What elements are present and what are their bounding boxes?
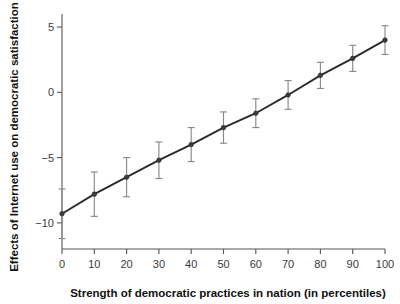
- y-tick-label: 0: [48, 86, 54, 98]
- y-tick-label: −5: [41, 152, 54, 164]
- data-point: [318, 73, 323, 78]
- x-tick-label: 90: [347, 258, 359, 270]
- data-point: [221, 125, 226, 130]
- x-tick-label: 100: [376, 258, 394, 270]
- data-point: [254, 111, 259, 116]
- y-tick-label: −10: [35, 217, 54, 229]
- x-tick-label: 0: [59, 258, 65, 270]
- x-tick-label: 60: [250, 258, 262, 270]
- x-tick-label: 80: [314, 258, 326, 270]
- x-tick-label: 10: [88, 258, 100, 270]
- y-axis-title: Effects of Internet use on democratic sa…: [8, 2, 20, 272]
- x-axis-title: Strength of democratic practices in nati…: [70, 287, 386, 299]
- data-point: [286, 93, 291, 98]
- x-tick-label: 30: [153, 258, 165, 270]
- data-point: [189, 142, 194, 147]
- x-tick-label: 40: [185, 258, 197, 270]
- data-point: [383, 38, 388, 43]
- data-point: [157, 158, 162, 163]
- chart-canvas: 50−5−10 0102030405060708090100 Strength …: [0, 0, 400, 304]
- data-point: [92, 192, 97, 197]
- x-tick-label: 20: [120, 258, 132, 270]
- x-tick-label: 50: [217, 258, 229, 270]
- data-point: [350, 56, 355, 61]
- chart-figure: 50−5−10 0102030405060708090100 Strength …: [0, 0, 400, 304]
- x-tick-label: 70: [282, 258, 294, 270]
- y-tick-label: 5: [48, 21, 54, 33]
- data-point: [60, 211, 65, 216]
- data-point: [124, 175, 129, 180]
